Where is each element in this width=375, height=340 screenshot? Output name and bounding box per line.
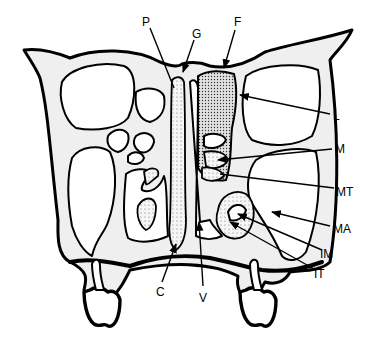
nasal-septum bbox=[169, 77, 186, 250]
label-mt: MT bbox=[336, 185, 354, 199]
label-p: P bbox=[142, 15, 150, 29]
left-ethmoid-cell-a bbox=[107, 130, 128, 152]
label-c: C bbox=[156, 285, 165, 299]
label-it: IT bbox=[314, 267, 325, 281]
left-ethmoid-cell-b bbox=[134, 133, 154, 152]
label-l: L bbox=[333, 109, 340, 123]
left-ethmoid-cell-c bbox=[128, 152, 144, 164]
label-m: M bbox=[335, 142, 345, 156]
label-f: F bbox=[234, 15, 241, 29]
right-tooth bbox=[240, 288, 276, 326]
label-v: V bbox=[199, 291, 207, 305]
left-tooth bbox=[84, 288, 120, 326]
label-ma: MA bbox=[333, 222, 351, 236]
left-orbit bbox=[61, 64, 135, 130]
leader-f bbox=[224, 30, 235, 68]
label-im: IM bbox=[320, 247, 333, 261]
right-orbit bbox=[243, 65, 320, 145]
label-g: G bbox=[192, 27, 201, 41]
sinus-diagram: P G F L M MT MA IM IT C V bbox=[0, 0, 375, 340]
